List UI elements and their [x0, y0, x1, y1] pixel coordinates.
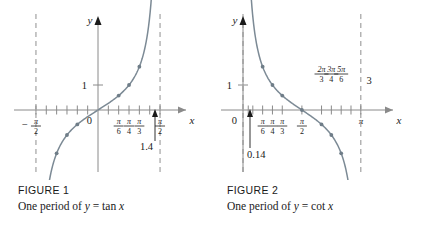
curve-point-marker — [329, 133, 333, 137]
tick-label-denominator: 3 — [320, 75, 324, 84]
y-axis-name-2: y — [232, 14, 238, 26]
tick-label-denominator: 4 — [329, 75, 333, 84]
curve-point-marker — [65, 133, 69, 137]
tick-label-numerator: 3π — [326, 65, 336, 74]
caption-func-1: tan — [102, 200, 116, 212]
upper-three-label-2: 3 — [366, 75, 371, 86]
y-axis-arrow-2 — [240, 16, 247, 25]
x-axis-arrow-1 — [178, 107, 186, 114]
curve-point-marker — [55, 151, 59, 155]
tick-label-denominator: 6 — [117, 127, 121, 136]
x-axis-name-1: x — [189, 114, 195, 126]
y-axis-name-1: y — [87, 14, 93, 26]
caption-equals-2: = — [299, 200, 311, 212]
tick-label-numerator: π — [34, 117, 39, 126]
caption-arg-2: x — [325, 200, 333, 212]
tick-label-numerator: π — [280, 117, 285, 126]
figure-2-plot: 1 0 x y π6π4π3π22π33π45π6 π 3 0.14 — [211, 0, 421, 180]
tick-label-numerator: π — [117, 117, 122, 126]
tick-label-denominator: 3 — [137, 127, 141, 136]
x-axis-name-2: x — [396, 114, 402, 126]
annotation-label-2: 0.14 — [247, 149, 266, 160]
caption-prefix-1: One period of — [18, 200, 85, 212]
cot-plot-svg: 1 0 x y π6π4π3π22π33π45π6 π 3 0.14 — [211, 0, 421, 180]
curve-point-marker — [280, 94, 284, 98]
curve-point-marker — [261, 65, 265, 69]
y-tick-label-1: 1 — [82, 80, 87, 91]
tick-label-numerator: π — [127, 117, 132, 126]
annotation-pointer-2 — [247, 109, 253, 148]
figure-sheet: 1 0 x y −π2π6π4π3π2 1.4 FIGURE 1 One per… — [0, 0, 421, 227]
tick-label-denominator: 6 — [261, 127, 265, 136]
curve-point-marker — [300, 108, 304, 112]
tick-label-denominator: 4 — [270, 127, 274, 136]
pi-tick-label-2: π — [359, 116, 364, 126]
tick-label-sign: − — [22, 119, 28, 130]
figure-1-panel: 1 0 x y −π2π6π4π3π2 1.4 FIGURE 1 One per… — [0, 0, 211, 227]
tan-plot-svg: 1 0 x y −π2π6π4π3π2 1.4 — [0, 0, 211, 180]
curve-point-marker — [127, 83, 131, 87]
tick-label-numerator: π — [270, 117, 275, 126]
tick-label-denominator: 2 — [300, 127, 304, 136]
curve-point-marker — [271, 83, 275, 87]
x-axis-arrow-2 — [385, 107, 393, 114]
caption-prefix-2: One period of — [227, 200, 294, 212]
caption-arg-1: x — [116, 200, 124, 212]
curve-point-marker — [339, 151, 343, 155]
tick-label-numerator: π — [261, 117, 266, 126]
y-axis-arrow-1 — [95, 16, 102, 25]
figure-1-caption: FIGURE 1 One period of y = tan x — [18, 184, 124, 212]
tick-label-denominator: 2 — [158, 127, 162, 136]
tick-label-numerator: π — [158, 117, 163, 126]
figure-1-caption-label: FIGURE 1 — [18, 184, 124, 196]
figure-2-caption: FIGURE 2 One period of y = cot x — [227, 184, 333, 212]
tick-label-denominator: 4 — [127, 127, 131, 136]
figure-2-caption-text: One period of y = cot x — [227, 200, 333, 212]
figure-2-caption-label: FIGURE 2 — [227, 184, 333, 196]
curve-point-marker — [137, 65, 141, 69]
origin-label-2: 0 — [232, 115, 237, 126]
x-tick-label-group-1: −π2π6π4π3π2 — [22, 117, 165, 136]
figure-1-plot: 1 0 x y −π2π6π4π3π2 1.4 — [0, 0, 211, 180]
figure-2-panel: 1 0 x y π6π4π3π22π33π45π6 π 3 0.14 FIGUR… — [211, 0, 421, 227]
tan-curve-segment — [98, 0, 153, 110]
curve-point-marker — [75, 123, 79, 127]
figure-1-caption-text: One period of y = tan x — [18, 200, 124, 212]
tick-label-numerator: 5π — [337, 65, 346, 74]
tick-label-numerator: π — [300, 117, 305, 126]
y-tick-label-2: 1 — [227, 80, 232, 91]
tick-label-denominator: 3 — [280, 127, 284, 136]
tick-label-numerator: 2π — [318, 65, 327, 74]
caption-equals-1: = — [90, 200, 102, 212]
origin-label-1: 0 — [87, 115, 92, 126]
curve-point-marker — [117, 94, 121, 98]
tick-label-denominator: 2 — [34, 127, 38, 136]
x-tick-label-group-2: π6π4π3π22π33π45π6 — [258, 65, 349, 136]
annotation-label-1: 1.4 — [140, 141, 154, 152]
tick-label-denominator: 6 — [339, 75, 343, 84]
caption-func-2: cot — [311, 200, 325, 212]
tick-label-numerator: π — [137, 117, 142, 126]
curve-point-marker — [320, 123, 324, 127]
